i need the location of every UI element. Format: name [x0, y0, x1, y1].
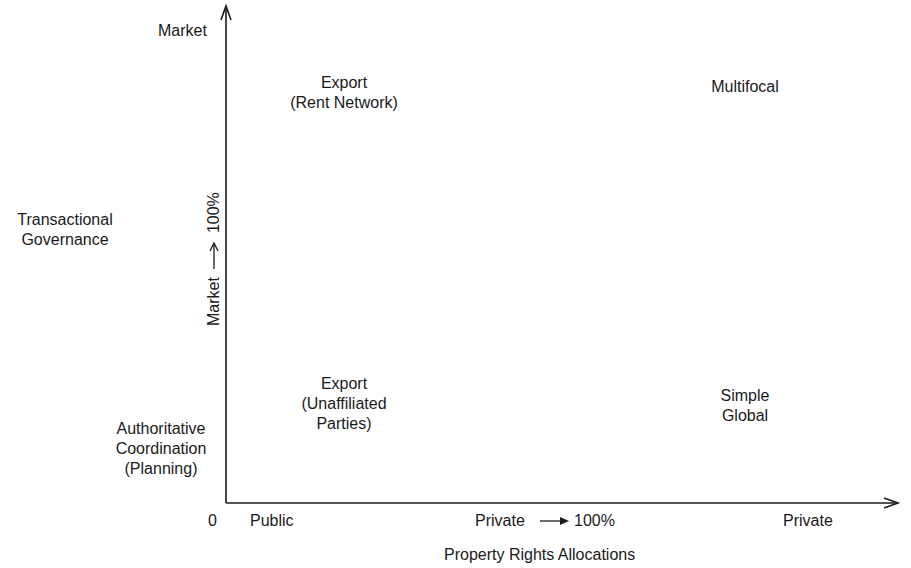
y-axis-bottom-label: Authoritative Coordination (Planning): [106, 419, 216, 479]
x-axis-left-label: Public: [250, 511, 294, 531]
quadrant-label-line: Global: [695, 406, 795, 426]
quadrant-top-right: Multifocal: [690, 77, 800, 97]
quadrant-label-line: Multifocal: [690, 77, 800, 97]
y-axis-rotated-label-right: 100%: [205, 192, 223, 233]
quadrant-label-line: (Rent Network): [274, 93, 414, 113]
y-axis-top-label: Market: [158, 21, 207, 41]
y-axis-bottom-label-line: Authoritative: [106, 419, 216, 439]
y-axis-middle-label-line: Governance: [10, 230, 120, 250]
y-axis-middle-label: Transactional Governance: [10, 210, 120, 250]
quadrant-bottom-left: Export (Unaffiliated Parties): [274, 374, 414, 434]
y-axis-rotated-label: Market 100%: [205, 192, 223, 326]
y-axis-bottom-label-line: (Planning): [106, 459, 216, 479]
quadrant-top-left: Export (Rent Network): [274, 73, 414, 113]
quadrant-label-line: Export: [274, 374, 414, 394]
y-axis-bottom-label-line: Coordination: [106, 439, 216, 459]
x-axis-title: Property Rights Allocations: [444, 545, 635, 565]
quadrant-label-line: Parties): [274, 414, 414, 434]
x-inline-arrowhead-icon: [560, 517, 569, 525]
quadrant-label-line: (Unaffiliated: [274, 394, 414, 414]
quadrant-label-line: Simple: [695, 386, 795, 406]
quadrant-bottom-right: Simple Global: [695, 386, 795, 426]
x-axis-middle-label-left: Private: [475, 511, 525, 531]
x-axis-right-label: Private: [783, 511, 833, 531]
quadrant-label-line: Export: [274, 73, 414, 93]
y-axis-middle-label-line: Transactional: [10, 210, 120, 230]
y-inline-arrow-icon: [209, 241, 219, 269]
x-axis-origin: 0: [208, 511, 217, 531]
y-axis-rotated-label-left: Market: [205, 277, 223, 326]
x-axis-middle-label-right: 100%: [574, 511, 615, 531]
